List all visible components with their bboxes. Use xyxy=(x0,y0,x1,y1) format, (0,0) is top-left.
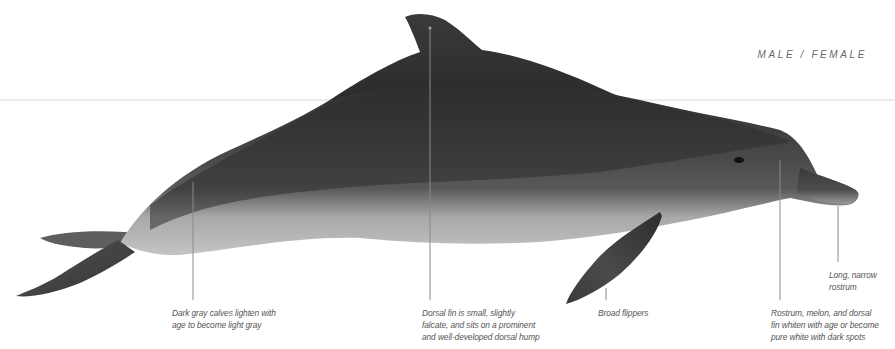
callout-text-line: pure white with dark spots xyxy=(771,331,879,343)
callout-rostrum: Long, narrow rostrum xyxy=(829,269,877,293)
sex-label: MALE / FEMALE xyxy=(758,49,867,60)
callout-flippers: Broad flippers xyxy=(598,307,648,319)
callout-text-line: rostrum xyxy=(829,281,877,293)
eye xyxy=(734,157,744,163)
callout-text-line: fin whiten with age or become xyxy=(771,319,879,331)
callout-whitening: Rostrum, melon, and dorsal fin whiten wi… xyxy=(771,307,879,344)
fluke-lower xyxy=(16,240,135,296)
callout-text-line: Long, narrow xyxy=(829,269,877,281)
callout-text-line: and well-developed dorsal hump xyxy=(422,331,540,343)
callout-text-line: Dorsal fin is small, slightly xyxy=(422,307,540,319)
callout-text-line: Rostrum, melon, and dorsal xyxy=(771,307,879,319)
dorsal-anchor-dot xyxy=(428,26,431,29)
callout-text-line: Broad flippers xyxy=(598,307,648,319)
callout-dorsal-fin: Dorsal fin is small, slightly falcate, a… xyxy=(422,307,540,344)
callout-text-line: Dark gray calves lighten with xyxy=(172,307,276,319)
callout-text-line: age to become light gray xyxy=(172,319,276,331)
callout-coloration: Dark gray calves lighten with age to bec… xyxy=(172,307,276,331)
callout-text-line: falcate, and sits on a prominent xyxy=(422,319,540,331)
